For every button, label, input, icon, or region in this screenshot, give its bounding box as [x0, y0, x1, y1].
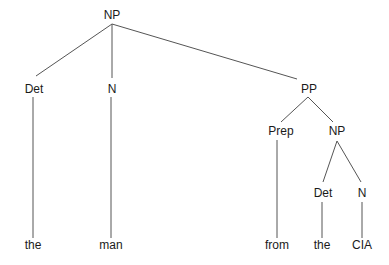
node-leaf-from: from — [265, 238, 289, 252]
edges — [33, 24, 362, 238]
node-n2: N — [358, 186, 367, 200]
node-det2: Det — [314, 186, 333, 200]
node-pp: PP — [301, 82, 317, 96]
node-np-root: NP — [104, 8, 121, 22]
edge-np_root-to-det1 — [36, 24, 112, 76]
node-prep: Prep — [268, 124, 294, 138]
edge-pp-to-prep — [281, 97, 308, 122]
edge-pp-to-np2 — [308, 97, 333, 122]
edge-np_root-to-pp — [112, 24, 297, 79]
syntax-tree: NPDetNPPPrepNPDetNthemanfromtheCIA — [0, 0, 389, 265]
edge-np2-to-det2 — [323, 141, 337, 182]
nodes: NPDetNPPPrepNPDetNthemanfromtheCIA — [25, 8, 372, 252]
node-np2: NP — [329, 124, 346, 138]
edge-np2-to-n2 — [337, 141, 361, 182]
node-leaf-man: man — [99, 238, 122, 252]
node-leaf-cia: CIA — [352, 238, 372, 252]
node-leaf-the2: the — [314, 238, 331, 252]
node-det1: Det — [25, 82, 44, 96]
node-leaf-the1: the — [25, 238, 42, 252]
node-n1: N — [108, 82, 117, 96]
